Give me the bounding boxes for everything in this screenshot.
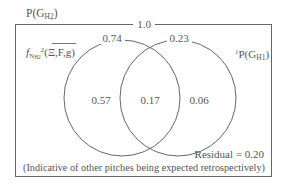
total-label: 1.0: [137, 18, 151, 30]
venn-diagram: P(GH2) 1.0 fNH22(Ξ,F,g) 1P(GH1) 0.74 0.2…: [0, 0, 287, 184]
universe-label: P(GH2): [26, 7, 58, 21]
right-set-circle: [120, 40, 236, 156]
intersection-value: 0.17: [140, 94, 160, 106]
left-set-circle: [64, 40, 180, 156]
right-set-total: 0.23: [169, 32, 189, 44]
right-set-label: 1P(GH1): [235, 48, 269, 62]
residual-label: Residual = 0.20: [195, 148, 265, 160]
left-set-total: 0.74: [102, 32, 122, 44]
left-set-label: fNH22(Ξ,F,g): [26, 46, 75, 60]
residual-note: (Indicative of other pitches being expec…: [23, 161, 265, 174]
right-only-value: 0.06: [189, 94, 209, 106]
left-only-value: 0.57: [91, 94, 111, 106]
